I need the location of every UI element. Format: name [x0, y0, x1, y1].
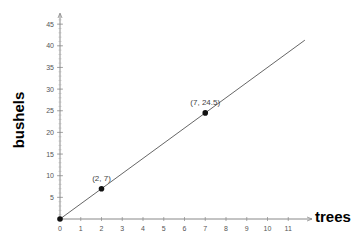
- line-chart: 5101520253035404501234567891011(2, 7)(7,…: [0, 0, 356, 245]
- data-point: [99, 186, 105, 192]
- x-axis-title: trees: [315, 208, 351, 225]
- x-tick-label: 4: [141, 225, 145, 232]
- y-tick-label: 10: [46, 172, 54, 179]
- x-tick-label: 10: [264, 225, 272, 232]
- y-tick-label: 45: [46, 21, 54, 28]
- point-label: (2, 7): [92, 174, 111, 183]
- x-tick-label: 2: [100, 225, 104, 232]
- y-tick-label: 15: [46, 151, 54, 158]
- y-tick-label: 25: [46, 107, 54, 114]
- x-tick-label: 8: [224, 225, 228, 232]
- y-tick-label: 30: [46, 86, 54, 93]
- x-tick-label: 6: [183, 225, 187, 232]
- y-tick-label: 35: [46, 64, 54, 71]
- data-point: [57, 216, 63, 222]
- y-tick-label: 5: [50, 194, 54, 201]
- y-tick-label: 20: [46, 129, 54, 136]
- x-tick-label: 9: [245, 225, 249, 232]
- series-line: [60, 40, 305, 219]
- x-tick-label: 1: [79, 225, 83, 232]
- x-tick-label: 11: [285, 225, 292, 232]
- point-label: (7, 24.5): [190, 98, 220, 107]
- x-tick-label: 5: [162, 225, 166, 232]
- y-axis-title: bushels: [10, 92, 27, 149]
- x-tick-label: 0: [58, 225, 62, 232]
- x-tick-label: 3: [120, 225, 124, 232]
- y-tick-label: 40: [46, 42, 54, 49]
- data-point: [202, 110, 208, 116]
- x-tick-label: 7: [203, 225, 207, 232]
